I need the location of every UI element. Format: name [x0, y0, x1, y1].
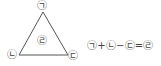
equation-term-1: ㉠	[87, 40, 97, 51]
equals-operator: =	[135, 40, 143, 51]
vertex-bottom-right-label: ㉢	[68, 51, 78, 61]
plus-operator: +	[97, 40, 105, 51]
vertex-bottom-left-label: ㉡	[7, 50, 17, 60]
equation-term-2: ㉡	[106, 40, 116, 51]
center-label: ㉣	[37, 36, 47, 46]
equation-result: ㉣	[143, 40, 153, 51]
minus-operator: −	[116, 40, 124, 51]
triangle-diagram	[0, 0, 161, 66]
triangle-shape	[19, 12, 68, 55]
equation-term-3: ㉢	[125, 40, 135, 51]
vertex-top-label: ㉠	[37, 1, 47, 11]
equation: ㉠+㉡−㉢=㉣	[87, 40, 153, 52]
